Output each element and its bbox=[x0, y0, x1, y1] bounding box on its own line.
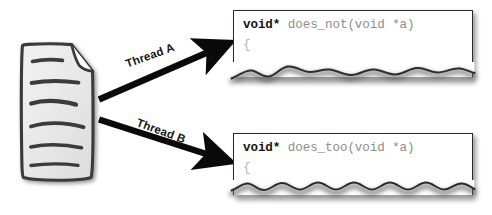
diagram-canvas: Main program Thread A Thread B bbox=[0, 0, 492, 215]
thread-a-label: Thread A bbox=[124, 41, 176, 70]
code-box-does-too: void* does_too(void *a) { bbox=[233, 133, 473, 195]
thread-b-label: Thread B bbox=[135, 116, 187, 145]
function-signature: does_too(void *a) bbox=[280, 141, 414, 155]
code-box-does-not: void* does_not(void *a) { bbox=[233, 10, 473, 77]
keyword-void-pointer: void* bbox=[243, 18, 280, 32]
open-brace: { bbox=[243, 38, 250, 52]
keyword-void-pointer: void* bbox=[243, 141, 280, 155]
code-signature-line: void* does_not(void *a) bbox=[243, 18, 415, 32]
document-sketch-icon bbox=[14, 38, 110, 188]
function-signature: does_not(void *a) bbox=[280, 18, 414, 32]
code-signature-line: void* does_too(void *a) bbox=[243, 141, 415, 155]
open-brace: { bbox=[243, 161, 250, 175]
main-program-node: Main program bbox=[14, 38, 110, 188]
